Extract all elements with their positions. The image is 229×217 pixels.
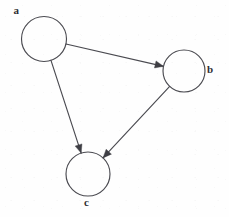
node-a-circle[interactable] xyxy=(22,17,67,62)
node-b-label: b xyxy=(207,64,213,75)
edge-b-to-c-line xyxy=(103,86,170,158)
edge-a-to-b xyxy=(66,44,164,68)
graph-figure: a b c xyxy=(0,0,229,217)
edge-a-to-c xyxy=(51,60,82,153)
node-c-label: c xyxy=(84,197,89,208)
node-b-circle[interactable] xyxy=(163,50,205,92)
node-a-label: a xyxy=(14,5,20,16)
edge-a-to-c-line xyxy=(51,60,81,153)
graph-canvas xyxy=(0,0,229,217)
node-c-circle[interactable] xyxy=(66,152,110,196)
edge-a-to-b-arrowhead xyxy=(154,61,163,68)
edge-b-to-c xyxy=(103,86,170,158)
edge-a-to-b-line xyxy=(66,44,164,66)
edge-a-to-c-arrowhead xyxy=(75,144,82,153)
